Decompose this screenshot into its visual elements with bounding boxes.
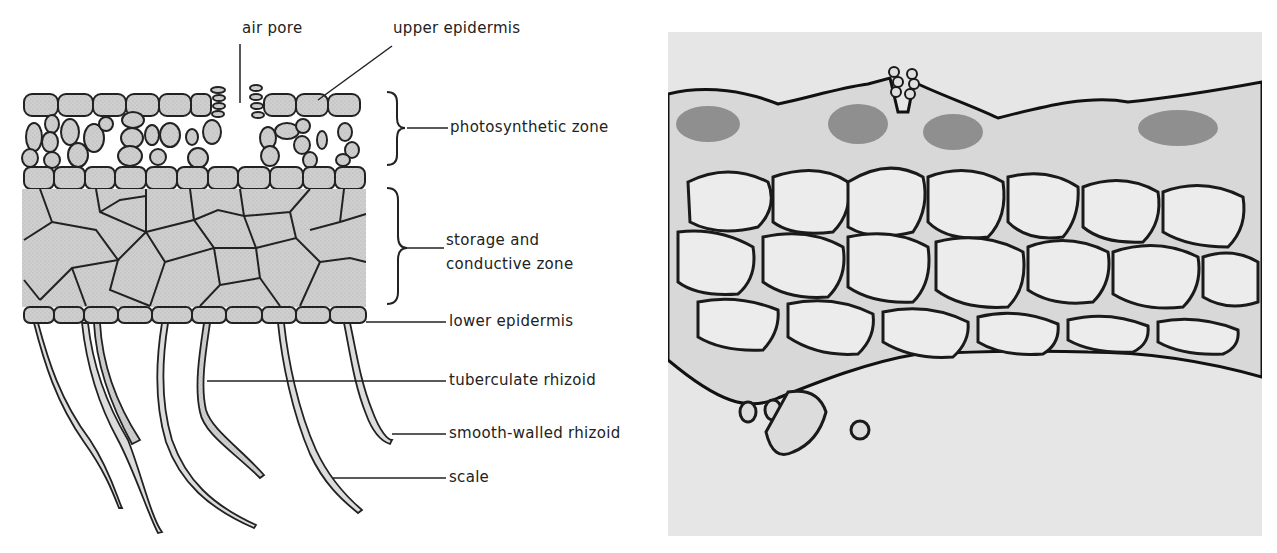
photosynthetic-filaments xyxy=(22,112,359,168)
floor-cells xyxy=(24,167,365,189)
zone-braces xyxy=(387,92,407,304)
diagram-drawing xyxy=(0,0,660,553)
label-storage-zone-line1: storage and xyxy=(446,232,539,249)
lower-epidermis xyxy=(24,307,366,323)
thallus-micrograph xyxy=(668,32,1262,536)
label-scale: scale xyxy=(449,469,489,486)
label-photosynthetic-zone: photosynthetic zone xyxy=(450,119,609,136)
label-smooth-walled-rhizoid: smooth-walled rhizoid xyxy=(449,425,621,442)
rhizoids xyxy=(34,323,392,533)
micrograph-image xyxy=(668,32,1262,536)
thallus-diagram: air pore upper epidermis photosynthetic … xyxy=(0,0,660,553)
label-air-pore: air pore xyxy=(242,20,302,37)
storage-zone xyxy=(22,189,366,307)
upper-epidermis xyxy=(24,85,360,118)
label-upper-epidermis: upper epidermis xyxy=(393,20,520,37)
label-storage-zone-line2: conductive zone xyxy=(446,256,573,273)
label-tuberculate-rhizoid: tuberculate rhizoid xyxy=(449,372,596,389)
label-lower-epidermis: lower epidermis xyxy=(449,313,573,330)
